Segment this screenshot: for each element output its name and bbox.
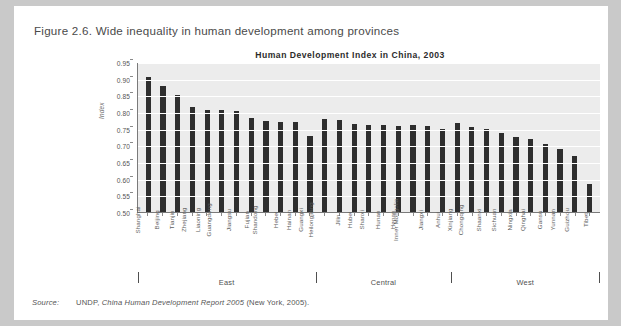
bar[interactable] [484,129,489,212]
gridline [138,146,600,147]
bar-slot [303,63,318,212]
gridline [138,63,600,64]
x-tick-label: Hainan [285,210,292,230]
x-label-slot: Jilin [332,216,347,268]
bar[interactable] [440,129,445,212]
y-tick-label: 0.60 [117,176,130,183]
x-tick-mark [486,213,487,216]
bar[interactable] [410,125,415,212]
bar[interactable] [263,121,268,212]
bar-slot [420,63,435,212]
x-tick-label: Hunan [374,211,381,230]
x-tick-label: Hubei [345,212,352,229]
x-tick-mark [442,213,443,216]
x-axis-labels: ShanghaiBeijingTianjinZhejiangLiaoningGu… [137,216,600,268]
x-tick-mark [192,213,193,216]
bar-slot [494,63,509,212]
bar-slot [464,63,479,212]
bar-slot [244,63,259,212]
bar-slot [538,63,553,212]
bar-slot [376,63,391,212]
bar-slot [317,63,332,212]
x-tick-label: Shaanxi [475,209,482,232]
source-note: Source:UNDP, China Human Development Rep… [32,298,309,307]
bar[interactable] [352,124,357,212]
bar[interactable] [381,125,386,212]
bar[interactable] [587,184,592,212]
y-tick-label: 0.85 [117,93,130,100]
gridline [138,130,600,131]
y-tick-label: 0.50 [117,210,130,217]
x-tick-label: Guizhou [563,208,570,232]
x-tick-label: Heilongjiang [307,203,314,238]
bar[interactable] [469,127,474,212]
gridline [138,113,600,114]
bar[interactable] [366,125,371,212]
x-tick-mark [236,213,237,216]
gridline [138,180,600,181]
bar-slot [288,63,303,212]
figure-card: Figure 2.6. Wide inequality in human dev… [14,6,608,320]
chart-plot-area: Index 0.950.900.850.800.750.700.650.600.… [100,63,600,215]
x-tick-label: Xinjiang [445,209,452,232]
y-tick-label: 0.70 [117,143,130,150]
x-tick-label: Zhejiang [179,208,186,233]
y-axis-label: Index [98,102,105,119]
bar[interactable] [278,122,283,212]
bar[interactable] [513,137,518,212]
x-tick-label: Anhui [434,212,441,228]
bar-slot [553,63,568,212]
bar[interactable] [293,122,298,212]
y-tick-label: 0.90 [117,76,130,83]
x-tick-mark [530,213,531,216]
x-tick-mark [516,213,517,216]
bar[interactable] [337,120,342,212]
x-tick-label: Qinghai [519,209,526,231]
bar[interactable] [572,156,577,212]
x-tick-label: Inner Mongolia [392,199,399,241]
x-tick-label: Sichuan [489,209,496,232]
bar[interactable] [160,86,165,212]
x-tick-mark [354,213,355,216]
x-tick-mark [280,213,281,216]
bar[interactable] [528,139,533,212]
x-tick-label: Guangdong [205,204,212,237]
bar-slot [391,63,406,212]
gridline [138,80,600,81]
figure-caption: Figure 2.6. Wide inequality in human dev… [34,24,399,37]
source-label: Source: [32,298,76,307]
y-tick-mark [130,76,133,77]
bar-slot [362,63,377,212]
bar-slot [523,63,538,212]
x-tick-label: Jiangsu [225,209,232,231]
x-label-slot: Shandong [258,216,273,268]
bar[interactable] [543,144,548,212]
bar[interactable] [322,119,327,212]
region-boundary-tick [316,272,317,283]
x-tick-mark [427,213,428,216]
x-tick-label: Jilin [333,215,340,226]
source-title: China Human Development Report 2005 [102,298,244,307]
bar[interactable] [425,126,430,212]
bar-slot [509,63,524,212]
source-place: (New York, 2005). [246,298,309,307]
x-tick-label: Tianjin [167,211,174,230]
x-tick-label: Gansu [536,211,543,230]
x-tick-label: Shanxi [358,210,365,230]
bar[interactable] [455,123,460,212]
x-tick-mark [177,213,178,216]
bar-slot [450,63,465,212]
x-tick-mark [221,213,222,216]
x-tick-mark [265,213,266,216]
x-tick-mark [147,213,148,216]
y-tick-label: 0.75 [117,126,130,133]
y-tick-label: 0.80 [117,110,130,117]
x-tick-label: Beijing [153,211,160,230]
y-tick-label: 0.95 [117,60,130,67]
bar-slot [259,63,274,212]
x-tick-label: Shandong [251,206,258,235]
y-tick-mark [130,92,133,93]
y-tick-mark [130,176,133,177]
bar[interactable] [249,118,254,212]
bar[interactable] [499,133,504,212]
